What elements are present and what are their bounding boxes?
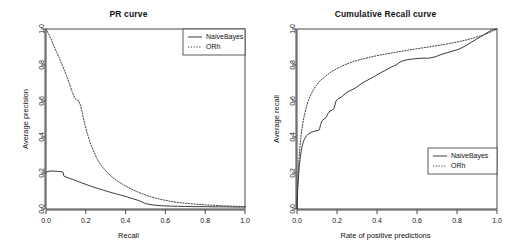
x-tick-label: 0.8 [452, 217, 462, 224]
y-tick-label: 1.0 [38, 24, 45, 34]
series-line-orh [297, 29, 497, 209]
series-line-naivebayes [46, 171, 245, 207]
x-tick-label: 0.0 [292, 217, 302, 224]
y-tick-label: 0.4 [38, 132, 45, 142]
plot-box [46, 29, 245, 209]
x-tick-label: 0.8 [200, 217, 210, 224]
y-axis-title: Average recall [272, 95, 281, 143]
y-tick-label: 0.8 [289, 60, 296, 70]
x-axis-title: Recall [0, 231, 257, 240]
x-tick-label: 0.2 [81, 217, 91, 224]
x-tick-label: 1.0 [240, 217, 250, 224]
plot-box [297, 29, 497, 209]
legend-label-naivebayes: NaiveBayes [451, 152, 488, 159]
x-axis-title: Rate of positive predictions [257, 231, 514, 240]
legend-label-naivebayes: NaiveBayes [206, 33, 243, 40]
x-tick-label: 0.6 [161, 217, 171, 224]
y-tick-label: 0.2 [38, 168, 45, 178]
x-tick-label: 0.4 [372, 217, 382, 224]
legend-label-orh: ORh [206, 43, 220, 50]
y-tick-label: 1.0 [289, 24, 296, 34]
series-line-orh [46, 29, 245, 207]
y-tick-label: 0.6 [38, 96, 45, 106]
y-tick-label: 0.6 [289, 96, 296, 106]
y-axis-title: Average precision [21, 89, 30, 149]
y-tick-label: 0.0 [38, 204, 45, 214]
x-tick-label: 0.4 [121, 217, 131, 224]
figure-canvas: PR curve Cumulative Recall curve 0.00.20… [0, 0, 514, 251]
series-line-naivebayes [297, 29, 497, 209]
y-tick-label: 0.0 [289, 204, 296, 214]
x-tick-label: 0.6 [412, 217, 422, 224]
x-tick-label: 0.0 [41, 217, 51, 224]
y-tick-label: 0.8 [38, 60, 45, 70]
x-tick-label: 0.2 [332, 217, 342, 224]
x-tick-label: 1.0 [492, 217, 502, 224]
y-tick-label: 0.2 [289, 168, 296, 178]
legend-label-orh: ORh [451, 162, 465, 169]
y-tick-label: 0.4 [289, 132, 296, 142]
